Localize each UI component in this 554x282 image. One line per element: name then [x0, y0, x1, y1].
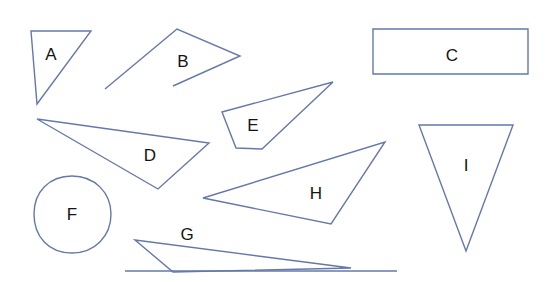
shapes-canvas: ABCDEFGHI	[0, 0, 554, 282]
shape-label-d: D	[144, 146, 156, 165]
shape-h: H	[203, 142, 385, 224]
shape-b: B	[105, 29, 240, 89]
shape-label-a: A	[45, 45, 57, 64]
shape-outline-g	[135, 240, 351, 272]
shape-outline-b	[105, 29, 240, 89]
shape-label-b: B	[177, 52, 188, 71]
shape-label-c: C	[446, 46, 458, 65]
shape-f: F	[34, 176, 111, 253]
shape-outline-h	[203, 142, 385, 224]
shape-outline-d	[37, 119, 209, 189]
shape-label-g: G	[180, 225, 193, 244]
shape-a: A	[31, 31, 91, 104]
shape-label-f: F	[67, 205, 77, 224]
shape-outline-a	[31, 31, 91, 104]
shape-d: D	[37, 119, 209, 189]
shape-outline-e	[222, 82, 333, 149]
shapes-svg: ABCDEFGHI	[0, 0, 554, 282]
shape-i: I	[419, 125, 513, 251]
shape-e: E	[222, 82, 333, 149]
shape-g: G	[125, 225, 397, 272]
shape-c: C	[373, 29, 528, 74]
shape-outline-i	[419, 125, 513, 251]
shape-label-h: H	[310, 184, 322, 203]
shape-label-i: I	[464, 156, 469, 175]
shape-label-e: E	[247, 116, 258, 135]
